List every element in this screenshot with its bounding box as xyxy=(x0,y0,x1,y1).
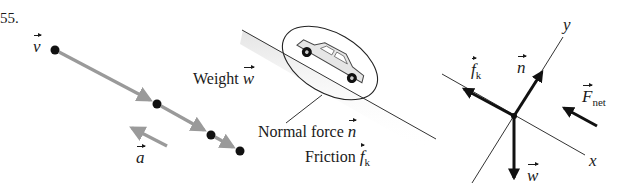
weight-text: Weight xyxy=(193,70,239,87)
fbd-friction-label: fk xyxy=(471,61,481,81)
fbd-friction-symbol: f xyxy=(471,61,476,78)
normal-force-arrow xyxy=(514,72,542,116)
fbd-weight-label: w xyxy=(527,167,538,183)
friction-text: Friction xyxy=(305,148,356,165)
velocity-symbol: v xyxy=(33,38,41,55)
friction-subscript: k xyxy=(364,156,370,168)
normal-symbol: n xyxy=(348,123,357,140)
motion-diagram xyxy=(51,46,245,156)
velocity-arrow-2 xyxy=(161,106,204,130)
position-dot-2 xyxy=(153,100,162,109)
normal-force-label: Normal force n xyxy=(258,123,356,140)
position-dot-3 xyxy=(207,131,216,140)
net-force-arrow xyxy=(564,108,597,126)
net-force-symbol: F xyxy=(582,88,592,105)
x-axis-symbol: x xyxy=(589,152,597,169)
velocity-arrow-1 xyxy=(59,52,150,100)
position-dot-1 xyxy=(51,46,60,55)
y-axis-symbol: y xyxy=(563,16,571,33)
net-force-label: Fnet xyxy=(582,88,606,108)
leader-line xyxy=(286,95,322,123)
fbd-friction-subscript: k xyxy=(476,69,482,81)
particle-dot xyxy=(511,113,517,119)
physics-figure: 55. v a Weight w Normal force n Friction… xyxy=(0,0,618,183)
normal-force-text: Normal force xyxy=(258,123,344,140)
fbd-normal-symbol: n xyxy=(517,59,526,76)
friction-label: Friction fk xyxy=(305,148,370,168)
velocity-label: v xyxy=(33,38,41,55)
fbd-normal-label: n xyxy=(517,59,526,76)
fbd-weight-symbol: w xyxy=(527,167,538,183)
friction-force-arrow xyxy=(464,89,514,116)
acceleration-arrow xyxy=(132,128,167,146)
acceleration-symbol: a xyxy=(136,149,145,166)
velocity-arrow-3 xyxy=(215,137,233,147)
position-dot-4 xyxy=(236,147,245,156)
weight-label: Weight w xyxy=(193,70,254,87)
weight-symbol: w xyxy=(243,70,254,87)
acceleration-label: a xyxy=(136,149,145,166)
x-axis-label: x xyxy=(589,152,597,169)
friction-symbol: f xyxy=(360,148,365,165)
problem-number: 55. xyxy=(0,11,19,26)
y-axis-label: y xyxy=(563,16,571,33)
net-force-subscript: net xyxy=(592,96,605,108)
